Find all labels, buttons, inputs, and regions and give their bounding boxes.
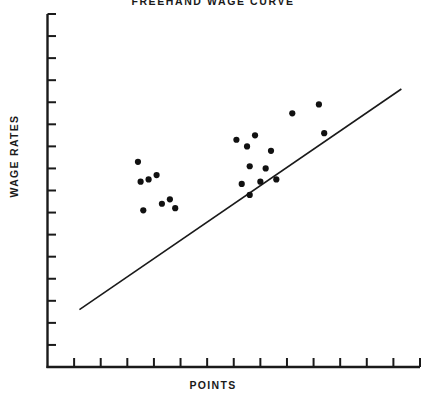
scatter-point — [138, 179, 144, 185]
scatter-point — [268, 148, 274, 154]
scatter-point — [135, 159, 141, 165]
plot-area — [0, 0, 426, 401]
scatter-point — [140, 207, 146, 213]
scatter-point — [153, 172, 159, 178]
scatter-point — [289, 110, 295, 116]
y-axis-ticks — [48, 14, 57, 345]
scatter-point — [172, 205, 178, 211]
scatter-point — [239, 181, 245, 187]
scatter-point — [247, 192, 253, 198]
scatter-point — [247, 163, 253, 169]
scatter-point — [321, 130, 327, 136]
scatter-point — [252, 132, 258, 138]
x-axis-ticks — [74, 358, 420, 367]
scatter-point — [244, 143, 250, 149]
scatter-point — [167, 196, 173, 202]
scatter-point — [233, 137, 239, 143]
freehand-wage-curve-figure: FREEHAND WAGE CURVE WAGE RATES POINTS — [0, 0, 426, 401]
scatter-point — [273, 176, 279, 182]
scatter-point — [146, 176, 152, 182]
scatter-point — [159, 201, 165, 207]
axes — [47, 14, 421, 368]
scatter-point — [257, 179, 263, 185]
scatter-point — [316, 101, 322, 107]
freehand-trend-line — [79, 89, 401, 310]
scatter-point — [263, 165, 269, 171]
scatter-points — [135, 101, 327, 213]
